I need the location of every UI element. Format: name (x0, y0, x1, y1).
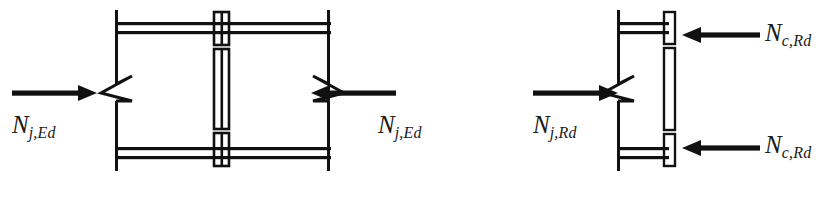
label-right-force-top: Nc,Rd (765, 20, 811, 49)
label-symbol: N (12, 111, 29, 138)
right-web-lower (327, 101, 330, 171)
label-symbol: N (765, 19, 782, 46)
label-subscript: c,Rd (782, 144, 812, 161)
right-diagram-web-upper (617, 10, 620, 84)
right-diagram-bottom-flange-inner (617, 156, 669, 159)
right-diagram-bottom-flange-outer (617, 147, 669, 150)
label-symbol: N (533, 111, 550, 138)
right-diagram-web-lower (617, 101, 620, 171)
label-subscript: j,Ed (29, 124, 56, 141)
label-subscript: c,Rd (782, 32, 812, 49)
left-web-upper (115, 10, 118, 84)
right-web-upper (327, 10, 330, 84)
label-left-force-out: Nj,Ed (378, 112, 422, 141)
label-right-force-bot: Nc,Rd (765, 132, 811, 161)
end-plate-segment-middle (664, 48, 675, 130)
left-web-lower (115, 101, 118, 171)
arrow-top-contact (682, 27, 760, 43)
label-subscript: j,Ed (395, 124, 422, 141)
left-diagram-group (12, 10, 396, 171)
label-symbol: N (378, 111, 395, 138)
label-left-force-in: Nj,Ed (12, 112, 56, 141)
arrow-right-diagram-inward (533, 85, 618, 101)
splice-plate-segment-bottom-rib (221, 133, 224, 166)
splice-plate-segment-top-rib (221, 12, 224, 45)
diagram-svg (0, 0, 831, 201)
label-subscript: j,Rd (550, 124, 577, 141)
arrow-left-inward (12, 85, 97, 101)
arrow-bottom-contact (682, 140, 760, 156)
right-diagram-group (533, 10, 760, 171)
right-diagram-top-flange-inner (617, 31, 669, 34)
splice-plate-segment-middle-rib (221, 49, 224, 129)
right-diagram-top-flange-outer (617, 22, 669, 25)
figure-canvas: Nj,Ed Nj,Ed Nj,Rd Nc,Rd Nc,Rd (0, 0, 831, 201)
label-right-force-in: Nj,Rd (533, 112, 577, 141)
label-symbol: N (765, 131, 782, 158)
end-plate-segment-top (664, 12, 675, 44)
